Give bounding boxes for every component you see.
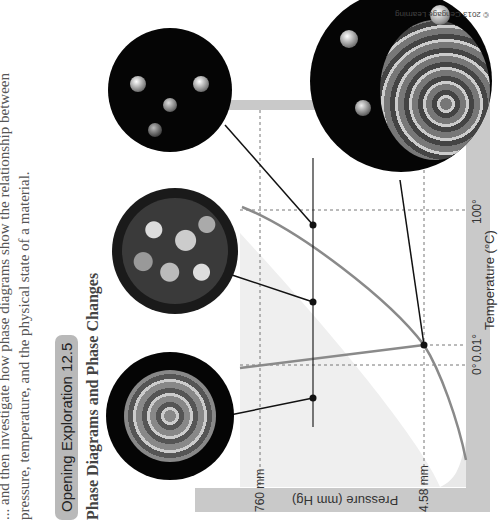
marker-solid <box>310 395 317 402</box>
marker-liquid <box>310 299 317 306</box>
x-axis-label: Temperature (°C) <box>482 230 497 330</box>
inset-solid <box>106 352 234 480</box>
y-axis-label: Pressure (mm Hg) <box>292 493 398 508</box>
inset-triple-point <box>310 0 492 172</box>
x-tick-0-01: 0.01° <box>470 334 484 362</box>
x-tick-100: 100° <box>470 199 484 224</box>
inset-gas <box>108 28 232 152</box>
marker-triple-point <box>421 342 428 349</box>
liquid-region <box>240 233 440 487</box>
copyright: © 2013 Cengage Learning <box>395 10 489 19</box>
inset-liquid <box>112 188 238 314</box>
y-tick-4-58: 4.58 mm <box>417 465 431 512</box>
marker-gas <box>310 222 317 229</box>
connector-gas <box>225 125 313 225</box>
y-tick-760: 760 mm <box>253 469 267 512</box>
x-tick-0: 0° <box>470 364 484 375</box>
